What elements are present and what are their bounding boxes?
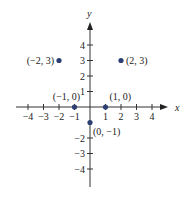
data-point	[72, 104, 77, 109]
point-label: (0, −1)	[93, 126, 120, 138]
y-tick-label: −3	[74, 148, 85, 159]
axes: xy	[16, 8, 180, 187]
x-tick-label: 1	[103, 111, 108, 122]
y-axis-arrow-icon	[87, 22, 93, 30]
x-axis-label: x	[174, 102, 180, 113]
x-tick-label: 3	[134, 111, 139, 122]
y-tick-label: 3	[80, 55, 85, 66]
y-axis-label: y	[86, 8, 92, 19]
y-tick-label: −4	[74, 164, 85, 175]
point-label: (−1, 0)	[53, 91, 80, 103]
point-label: (2, 3)	[126, 55, 148, 67]
data-points: (−2, 3)(2, 3)(−1, 0)(1, 0)(0, −1)	[27, 55, 148, 138]
coordinate-plane: xy −4−3−2−11234−4−3−21234 (−2, 3)(2, 3)(…	[0, 0, 192, 199]
data-point	[87, 120, 92, 125]
data-point	[103, 104, 108, 109]
x-tick-label: −3	[38, 111, 49, 122]
x-tick-label: −1	[69, 111, 80, 122]
point-label: (−2, 3)	[27, 55, 54, 67]
x-tick-label: −4	[23, 111, 34, 122]
y-tick-label: 1	[80, 86, 85, 97]
x-axis-arrow-icon	[160, 104, 168, 110]
x-tick-label: 2	[119, 111, 124, 122]
y-tick-label: −2	[74, 133, 85, 144]
data-point	[118, 58, 123, 63]
x-tick-label: 4	[150, 111, 155, 122]
y-tick-label: 4	[80, 40, 85, 51]
x-tick-label: −2	[54, 111, 65, 122]
y-tick-label: 2	[80, 71, 85, 82]
data-point	[56, 58, 61, 63]
point-label: (1, 0)	[110, 91, 132, 103]
